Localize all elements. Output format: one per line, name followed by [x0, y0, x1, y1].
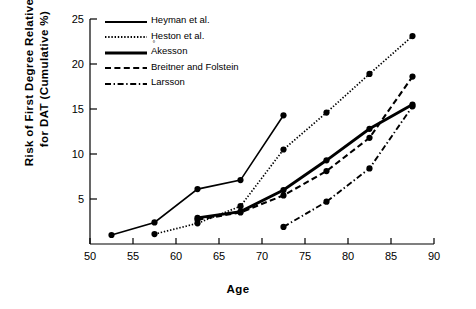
- data-point-marker: [280, 187, 286, 193]
- data-point-marker: [280, 224, 286, 230]
- data-point-marker: [366, 135, 372, 141]
- x-axis-title: Age: [0, 283, 476, 295]
- data-point-marker: [323, 199, 329, 205]
- data-point-marker: [151, 231, 157, 237]
- data-point-marker: [323, 157, 329, 163]
- data-point-marker: [194, 217, 200, 223]
- legend-line-swatch: [104, 14, 148, 26]
- chart-legend: Heyman et al.Heston et al.Akesson°Breitn…: [104, 12, 314, 90]
- legend-label: Heston et al.: [148, 30, 204, 41]
- data-point-marker: [280, 146, 286, 152]
- legend-label: Breitner and Folstein: [148, 61, 239, 72]
- legend-label: Larsson: [148, 76, 185, 87]
- x-axis-tick-label: 80: [342, 250, 354, 262]
- legend-label: Akesson°: [148, 45, 187, 56]
- x-axis-tick-label: 60: [170, 250, 182, 262]
- data-point-marker: [409, 33, 415, 39]
- data-point-marker: [237, 203, 243, 209]
- data-point-marker: [237, 209, 243, 215]
- x-axis-tick-label: 65: [213, 250, 225, 262]
- x-axis-tick-label: 85: [385, 250, 397, 262]
- data-point-marker: [108, 232, 114, 238]
- legend-item: Larsson: [104, 74, 314, 90]
- chart-container: 505560657075808590510152025 Risk of Firs…: [0, 0, 476, 309]
- data-point-marker: [366, 126, 372, 132]
- legend-item: Heston et al.: [104, 28, 314, 44]
- data-point-marker: [151, 219, 157, 225]
- y-axis-tick-label: 10: [72, 148, 84, 160]
- x-axis-tick-label: 55: [127, 250, 139, 262]
- legend-line-swatch: [104, 60, 148, 72]
- y-axis-title-line1: Risk of First Degree Relatives: [23, 0, 35, 166]
- legend-item: Heyman et al.: [104, 12, 314, 28]
- legend-label: Heyman et al.: [148, 14, 210, 25]
- series-line: [284, 106, 413, 227]
- y-axis-tick-label: 15: [72, 103, 84, 115]
- x-axis-tick-label: 75: [299, 250, 311, 262]
- legend-item: Breitner and Folstein: [104, 59, 314, 75]
- legend-line-swatch: [104, 45, 148, 57]
- data-point-marker: [366, 165, 372, 171]
- ring-diacritic: °: [153, 40, 156, 47]
- data-point-marker: [280, 112, 286, 118]
- data-point-marker: [409, 103, 415, 109]
- y-axis-tick-label: 25: [72, 13, 84, 25]
- y-axis-tick-label: 20: [72, 58, 84, 70]
- data-point-marker: [280, 192, 286, 198]
- x-axis-tick-label: 90: [428, 250, 440, 262]
- x-axis-tick-label: 70: [256, 250, 268, 262]
- data-series: [280, 103, 415, 230]
- y-axis-tick-label: 5: [78, 193, 84, 205]
- data-point-marker: [323, 168, 329, 174]
- legend-line-swatch: [104, 29, 148, 41]
- data-point-marker: [194, 186, 200, 192]
- data-point-marker: [409, 74, 415, 80]
- y-axis-title: Risk of First Degree Relatives for DAT (…: [22, 0, 52, 174]
- series-line: [198, 105, 413, 218]
- legend-line-swatch: [104, 76, 148, 88]
- data-series: [194, 101, 415, 221]
- data-point-marker: [323, 110, 329, 116]
- legend-item: Akesson°: [104, 43, 314, 59]
- series-line: [198, 77, 413, 220]
- data-point-marker: [237, 177, 243, 183]
- x-axis-tick-label: 50: [84, 250, 96, 262]
- data-point-marker: [366, 71, 372, 77]
- y-axis-title-line2: for DAT (Cumulative %): [38, 11, 50, 147]
